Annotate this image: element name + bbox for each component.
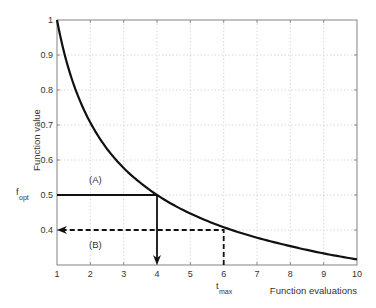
x-tick-label: 2 [88, 269, 93, 279]
annotation-b-arrow [57, 226, 224, 265]
x-tick-label: 8 [288, 269, 293, 279]
y-tick-label: 0.6 [40, 155, 53, 165]
x-axis-label: Function evaluations [270, 285, 357, 296]
x-tick-label: 3 [121, 269, 126, 279]
t-max-sub: max [219, 288, 233, 295]
x-tick-label: 1 [54, 269, 59, 279]
y-tick-label: 0.4 [40, 225, 53, 235]
y-tick-label: 0.9 [40, 50, 53, 60]
f-opt-sub: opt [19, 194, 29, 202]
x-tick-labels: 1 2 3 4 5 6 7 8 9 10 [54, 269, 362, 279]
x-tick-label: 10 [352, 269, 362, 279]
y-tick-labels: 0.4 0.5 0.6 0.7 0.8 0.9 1 [40, 15, 53, 235]
x-tick-label: 7 [254, 269, 259, 279]
y-axis-label: Function value [31, 109, 42, 171]
annotation-a-label: (A) [89, 174, 102, 185]
y-tick-label: 1 [48, 15, 53, 25]
y-tick-label: 0.5 [40, 190, 53, 200]
x-tick-label: 5 [188, 269, 193, 279]
f-opt-label: f opt [16, 186, 29, 202]
x-tick-label: 9 [321, 269, 326, 279]
annotation-b-label: (B) [89, 239, 102, 250]
y-tick-label: 0.7 [40, 120, 53, 130]
x-tick-label: 4 [154, 269, 159, 279]
convergence-curve [57, 20, 357, 259]
x-tick-label: 6 [221, 269, 226, 279]
y-tick-label: 0.8 [40, 85, 53, 95]
chart-canvas: 1 2 3 4 5 6 7 8 9 10 0.4 0.5 0.6 0.7 0.8… [0, 0, 376, 308]
t-max-label: t max [216, 280, 233, 295]
